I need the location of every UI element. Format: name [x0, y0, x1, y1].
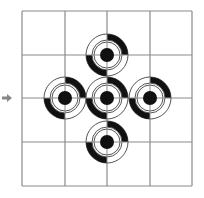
target-top — [86, 34, 128, 76]
arrow-right-icon — [2, 94, 12, 102]
target-left — [44, 77, 86, 119]
arrow-shape — [2, 94, 12, 102]
target-bottom — [86, 121, 128, 163]
target-grid-diagram — [0, 0, 204, 198]
targets — [44, 34, 171, 163]
target-bullseye — [100, 48, 114, 62]
target-bullseye — [143, 91, 157, 105]
target-bullseye — [100, 91, 114, 105]
target-right — [129, 77, 171, 119]
target-bullseye — [58, 91, 72, 105]
target-center — [86, 77, 128, 119]
target-bullseye — [100, 135, 114, 149]
